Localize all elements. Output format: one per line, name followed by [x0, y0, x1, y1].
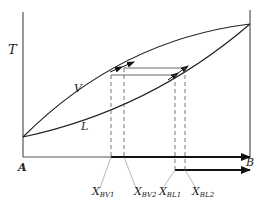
- leader-xbv2: [124, 157, 136, 188]
- leader-xbv1: [100, 157, 111, 188]
- label-xbl2: XBL2: [191, 185, 215, 199]
- label-xbv2: XBV2: [133, 185, 157, 199]
- label-xbl1: XBL1: [158, 185, 181, 199]
- label-b: B: [245, 156, 254, 169]
- label-vapor: V: [74, 82, 83, 95]
- label-a: A: [17, 161, 27, 174]
- label-xbv1: XBV1: [91, 185, 115, 199]
- vapor-curve: [23, 24, 250, 137]
- label-liquid: L: [80, 120, 88, 133]
- phase-diagram: T A B V L XBV1 XBV2 XBL1 XBL2: [0, 0, 269, 211]
- y-axis-label: T: [8, 42, 18, 57]
- liquid-curve: [23, 24, 250, 137]
- liquid-arrow-2: [178, 66, 188, 73]
